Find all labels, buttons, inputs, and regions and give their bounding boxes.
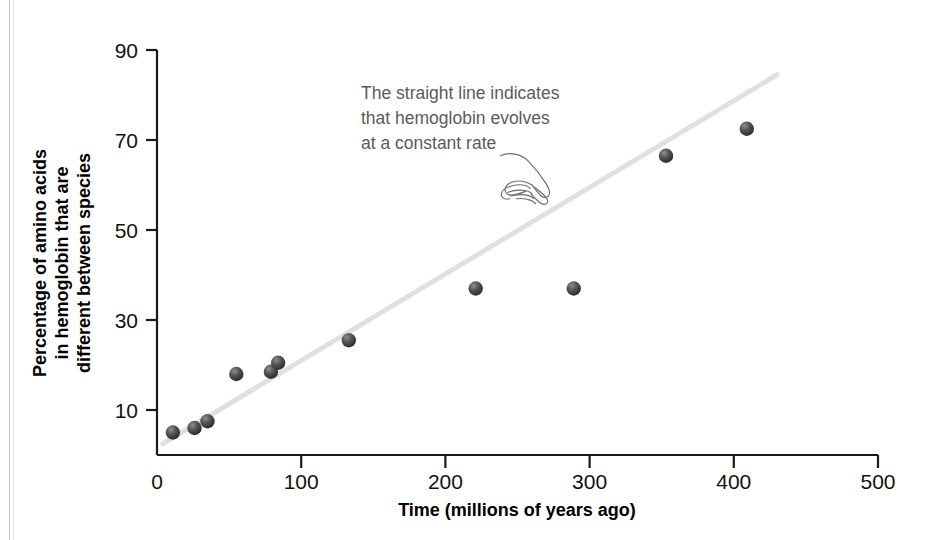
scatter-plot-canvas: 1030507090 0100200300400500 Time (millio…: [0, 0, 925, 540]
annotation-line-3: at a constant rate: [361, 133, 496, 153]
x-tick-label: 500: [860, 470, 895, 493]
y-tick-label: 30: [115, 309, 138, 332]
trend-line-group: [163, 75, 777, 444]
data-point: [271, 356, 285, 370]
y-tick-label: 90: [115, 39, 138, 62]
pointing-hand-icon: [501, 154, 550, 205]
data-point: [229, 367, 243, 381]
y-tick-label: 10: [115, 399, 138, 422]
trend-line: [163, 75, 777, 444]
data-points-group: [166, 122, 754, 440]
y-tick-label: 70: [115, 129, 138, 152]
x-tick-label: 0: [151, 470, 163, 493]
x-tick-label: 300: [572, 470, 607, 493]
annotation-line-2: that hemoglobin evolves: [361, 108, 550, 128]
annotation-group: The straight line indicates that hemoglo…: [361, 83, 560, 204]
x-axis-ticks: 0100200300400500: [151, 455, 895, 493]
x-tick-label: 200: [428, 470, 463, 493]
data-point: [342, 333, 356, 347]
y-axis-title-line-2: in hemoglobin that are: [52, 166, 72, 359]
y-axis-title-line-3: different between species: [74, 153, 94, 373]
annotation-line-1: The straight line indicates: [361, 83, 560, 103]
x-axis-title: Time (millions of years ago): [398, 500, 636, 520]
data-point: [187, 421, 201, 435]
data-point: [740, 122, 754, 136]
data-point: [567, 281, 581, 295]
y-axis-ticks: 1030507090: [115, 39, 157, 422]
chart-figure: 1030507090 0100200300400500 Time (millio…: [0, 0, 925, 540]
y-tick-label: 50: [115, 219, 138, 242]
data-point: [468, 281, 482, 295]
data-point: [200, 414, 214, 428]
x-tick-label: 400: [716, 470, 751, 493]
x-tick-label: 100: [284, 470, 319, 493]
y-axis-title-line-1: Percentage of amino acids: [30, 149, 50, 377]
data-point: [659, 149, 673, 163]
y-axis-title: Percentage of amino acids in hemoglobin …: [30, 149, 94, 377]
data-point: [166, 425, 180, 439]
